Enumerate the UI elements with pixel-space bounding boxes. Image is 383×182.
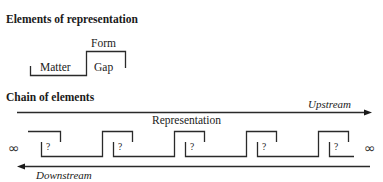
form-matter-bracket	[31, 52, 126, 76]
downstream-arrowhead-icon	[17, 164, 25, 170]
upstream-arrowhead-icon	[364, 110, 372, 116]
chain-unit-3	[114, 132, 205, 157]
diagram-lines	[0, 0, 383, 182]
chain-form-1	[28, 132, 61, 143]
chain-tail	[330, 142, 355, 157]
chain-unit-5	[258, 132, 349, 157]
chain-unit-2	[42, 132, 133, 157]
chain-unit-4	[186, 132, 277, 157]
